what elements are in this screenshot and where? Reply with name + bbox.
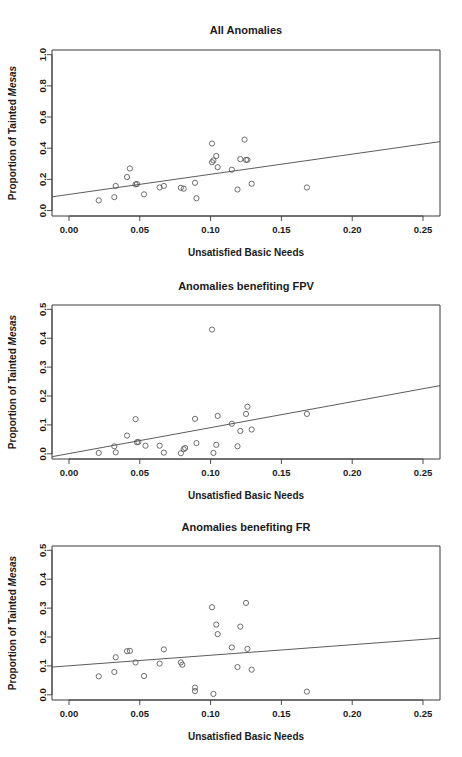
data-point [243,411,248,416]
data-point [194,441,199,446]
data-point [124,174,129,179]
y-tick-label: 0.4 [37,141,48,155]
plot-frame [52,546,440,700]
data-point [127,166,132,171]
y-tick-label: 0.5 [37,543,48,557]
data-point [194,196,199,201]
y-axis-label-prefix: Proportion of Tainted [7,345,18,449]
x-tick-label: 0.15 [272,467,291,478]
data-point [238,624,243,629]
data-point-group [96,137,309,203]
figure-container: All Anomalies0.000.050.100.150.200.250.0… [0,0,462,757]
x-tick-label: 0.00 [60,467,79,478]
x-tick-label: 0.15 [272,708,291,719]
data-point [235,664,240,669]
data-point [214,153,219,158]
x-tick-label: 0.10 [201,708,220,719]
y-tick-label: 0.1 [37,659,48,673]
chart-panel-fr: Anomalies benefiting FR0.000.050.100.150… [0,512,462,752]
scatter-plot-2: Anomalies benefiting FPV0.000.050.100.15… [0,277,462,509]
chart-panel-all-anomalies: All Anomalies0.000.050.100.150.200.250.0… [0,18,462,268]
x-tick-label: 0.05 [131,467,150,478]
data-point [157,443,162,448]
regression-line [52,142,440,197]
y-axis-label-italic-term: Mesas [7,314,18,345]
data-point [214,442,219,447]
data-point [304,411,309,416]
data-point [242,137,247,142]
x-tick-label: 0.05 [131,224,150,235]
y-tick-label: 0.4 [37,331,48,345]
data-point [238,428,243,433]
data-point [161,450,166,455]
y-tick-label: 0.3 [37,361,48,374]
regression-line [52,638,440,667]
data-point [235,444,240,449]
data-point [304,185,309,190]
data-point [245,404,250,409]
y-tick-label: 0.2 [37,630,48,643]
scatter-plot-1: All Anomalies0.000.050.100.150.200.250.0… [0,18,462,268]
x-tick-label: 0.05 [131,708,150,719]
y-tick-label: 0.5 [37,302,48,316]
x-tick-label: 0.20 [343,467,362,478]
data-point [235,187,240,192]
data-point [192,416,197,421]
y-axis-label-italic-term: Mesas [7,555,18,586]
panel-title: Anomalies benefiting FPV [178,280,314,292]
x-tick-label: 0.15 [272,224,291,235]
data-point [143,443,148,448]
data-point [245,646,250,651]
y-tick-label: 0.3 [37,602,48,615]
data-point [243,600,248,605]
scatter-plot-3: Anomalies benefiting FR0.000.050.100.150… [0,512,462,752]
x-tick-label: 0.25 [414,467,433,478]
data-point [229,645,234,650]
data-point [249,427,254,432]
data-point [96,450,101,455]
y-tick-label: 0.0 [37,447,48,460]
data-point [249,667,254,672]
data-point [209,141,214,146]
data-point [214,622,219,627]
x-tick-label: 0.25 [414,224,433,235]
data-point [112,669,117,674]
y-axis-label-italic-term: Mesas [7,65,18,96]
y-tick-label: 1.0 [37,48,48,61]
data-point [304,689,309,694]
data-point [133,417,138,422]
data-point [238,157,243,162]
y-tick-label: 0.0 [37,204,48,217]
data-point [211,450,216,455]
y-axis-label: Proportion of Tainted Mesas [7,65,18,200]
x-axis-label: Unsatisfied Basic Needs [188,247,305,258]
plot-frame [52,305,440,459]
y-tick-label: 0.2 [37,173,48,186]
x-tick-label: 0.00 [60,708,79,719]
data-point [113,655,118,660]
data-point [112,195,117,200]
data-point [192,180,197,185]
data-point [96,198,101,203]
y-tick-label: 0.8 [37,79,48,92]
x-axis-label: Unsatisfied Basic Needs [188,731,305,742]
panel-title: Anomalies benefiting FR [182,521,311,533]
y-tick-label: 0.1 [37,418,48,432]
y-axis-label: Proportion of Tainted Mesas [7,314,18,449]
y-axis-label-prefix: Proportion of Tainted [7,96,18,200]
y-tick-label: 0.0 [37,688,48,701]
data-point [215,632,220,637]
y-axis-label-prefix: Proportion of Tainted [7,586,18,690]
x-tick-label: 0.10 [201,224,220,235]
y-axis-label: Proportion of Tainted Mesas [7,555,18,690]
x-tick-label: 0.00 [60,224,79,235]
data-point [141,673,146,678]
data-point [157,661,162,666]
y-tick-label: 0.6 [37,110,48,123]
data-point [141,192,146,197]
data-point [161,647,166,652]
data-point [192,688,197,693]
y-tick-label: 0.2 [37,389,48,402]
x-tick-label: 0.10 [201,467,220,478]
data-point [249,181,254,186]
